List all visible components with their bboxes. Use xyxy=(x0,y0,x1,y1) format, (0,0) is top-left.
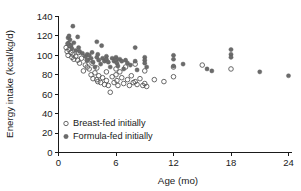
data-point xyxy=(135,68,139,72)
data-point xyxy=(210,69,214,73)
data-point xyxy=(99,62,103,66)
data-point xyxy=(162,79,167,84)
data-point xyxy=(104,70,109,75)
y-tick-label: 140 xyxy=(37,11,53,22)
data-point xyxy=(171,74,176,79)
x-axis-ticks: 06121824 xyxy=(56,153,294,168)
data-point xyxy=(143,61,147,65)
data-point xyxy=(205,67,209,71)
data-point xyxy=(116,83,121,88)
data-point xyxy=(120,59,124,63)
data-point xyxy=(138,76,143,81)
data-point xyxy=(129,73,134,78)
x-tick-label: 18 xyxy=(226,157,237,168)
data-point xyxy=(152,77,157,82)
x-tick-label: 24 xyxy=(283,157,294,168)
data-point xyxy=(77,45,81,49)
data-point xyxy=(116,64,120,68)
data-point xyxy=(85,58,89,62)
legend-marker-breast-fed xyxy=(64,121,68,125)
data-point xyxy=(108,65,112,69)
energy-intake-scatter-figure: 020406080100120140 06121824 Age (mo) Ene… xyxy=(0,0,301,191)
data-point xyxy=(76,35,80,39)
data-point xyxy=(229,47,233,51)
data-point xyxy=(104,78,109,83)
y-tick-label: 0 xyxy=(47,147,52,158)
data-point xyxy=(91,60,95,64)
data-point xyxy=(145,65,149,69)
data-point xyxy=(133,59,137,63)
data-point xyxy=(106,60,110,64)
data-point xyxy=(70,46,74,50)
data-point xyxy=(133,45,137,49)
data-point xyxy=(229,55,233,59)
data-point xyxy=(128,63,132,67)
x-tick-label: 6 xyxy=(113,157,118,168)
data-point xyxy=(68,38,72,42)
data-point xyxy=(95,40,99,44)
data-point xyxy=(286,74,290,78)
data-point xyxy=(97,58,101,62)
data-point xyxy=(229,67,234,72)
x-tick-label: 0 xyxy=(56,157,61,168)
data-point xyxy=(118,70,123,75)
data-point xyxy=(89,56,93,60)
data-point xyxy=(171,64,175,68)
data-point xyxy=(81,69,86,74)
data-point xyxy=(171,53,175,57)
legend-label-formula-fed: Formula-fed initially xyxy=(73,131,153,141)
data-point xyxy=(100,44,104,48)
data-point xyxy=(90,50,94,54)
data-point xyxy=(67,34,71,38)
x-axis-title: Age (mo) xyxy=(158,175,198,186)
data-point xyxy=(142,69,147,74)
data-point xyxy=(171,57,175,61)
data-point xyxy=(122,67,126,71)
data-point xyxy=(71,24,75,28)
y-tick-label: 80 xyxy=(42,69,53,80)
y-tick-label: 60 xyxy=(42,89,53,100)
data-point xyxy=(93,65,97,69)
y-tick-label: 40 xyxy=(42,108,53,119)
y-axis-ticks: 020406080100120140 xyxy=(37,11,59,158)
y-axis-title: Energy intake (kcal/kg/d) xyxy=(4,30,15,138)
data-point xyxy=(72,41,76,45)
legend: Breast-fed initially Formula-fed initial… xyxy=(64,118,153,141)
data-point xyxy=(121,81,126,86)
data-point xyxy=(119,75,124,80)
data-point xyxy=(108,90,113,95)
data-point xyxy=(181,62,185,66)
data-point xyxy=(125,77,130,82)
series-formula-fed-points xyxy=(66,24,291,78)
legend-label-breast-fed: Breast-fed initially xyxy=(73,118,146,128)
data-point xyxy=(200,63,205,68)
y-tick-label: 100 xyxy=(37,50,53,61)
y-tick-label: 120 xyxy=(37,30,53,41)
data-point xyxy=(258,70,262,74)
data-point xyxy=(96,52,100,56)
legend-marker-formula-fed xyxy=(64,134,68,138)
x-tick-label: 12 xyxy=(168,157,179,168)
scatter-plot-svg: 020406080100120140 06121824 Age (mo) Ene… xyxy=(0,0,301,191)
y-tick-label: 20 xyxy=(42,127,53,138)
